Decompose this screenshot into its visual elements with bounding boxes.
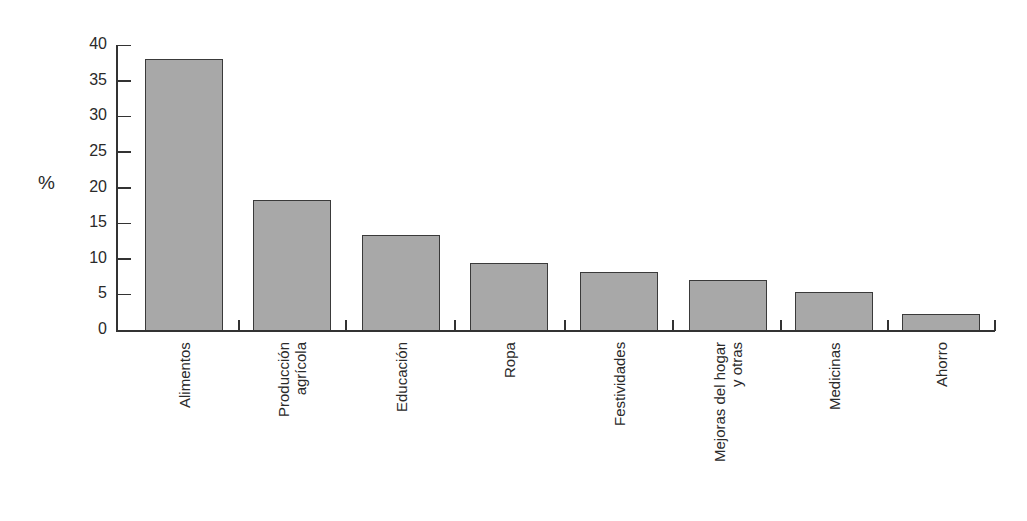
y-tick (116, 294, 131, 296)
x-tick-label: Ropa (501, 342, 518, 378)
x-axis-line (116, 330, 995, 332)
bar-producci-n-agr-cola (253, 200, 331, 330)
x-tick (564, 320, 566, 331)
bar-festividades (580, 272, 658, 330)
y-tick (116, 151, 131, 153)
y-tick (116, 258, 131, 260)
y-axis-label: % (38, 172, 55, 194)
x-tick-label: Mejoras del hogary otras (711, 342, 745, 462)
bar-educaci-n (362, 235, 440, 330)
x-tick (780, 320, 782, 331)
y-tick-label: 20 (77, 179, 107, 195)
y-tick (116, 45, 131, 47)
x-tick-label: Alimentos (176, 342, 193, 408)
x-tick-label: Ahorro (933, 342, 950, 387)
y-tick-label: 40 (77, 36, 107, 52)
bar-ahorro (902, 314, 980, 330)
bar-medicinas (795, 292, 873, 330)
x-tick (994, 320, 996, 331)
x-tick (672, 320, 674, 331)
x-tick-label: Producciónagrícola (275, 342, 309, 417)
bar-mejoras-del-hogar-y-otras (689, 280, 767, 330)
bar-alimentos (145, 59, 223, 330)
bar-ropa (470, 263, 548, 330)
x-tick-label: Festividades (611, 342, 628, 426)
y-tick-label: 0 (77, 321, 107, 337)
y-tick (116, 187, 131, 189)
x-tick-label: Medicinas (826, 342, 843, 410)
y-tick-label: 35 (77, 72, 107, 88)
x-tick (887, 320, 889, 331)
y-tick (116, 223, 131, 225)
x-tick (345, 320, 347, 331)
y-tick-label: 5 (77, 285, 107, 301)
y-tick (116, 80, 131, 82)
y-tick-label: 25 (77, 143, 107, 159)
y-tick-label: 10 (77, 250, 107, 266)
x-tick-label: Educación (393, 342, 410, 412)
y-axis-line (116, 45, 118, 331)
x-tick (238, 320, 240, 331)
x-tick (454, 320, 456, 331)
y-tick-label: 15 (77, 214, 107, 230)
y-tick-label: 30 (77, 107, 107, 123)
bar-chart: % 0510152025303540 AlimentosProducciónag… (0, 0, 1027, 521)
y-tick (116, 116, 131, 118)
